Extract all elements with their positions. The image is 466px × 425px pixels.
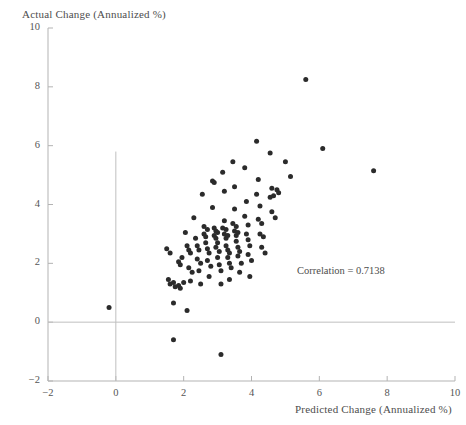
data-point xyxy=(268,151,273,156)
data-point xyxy=(244,199,249,204)
data-point xyxy=(220,170,225,175)
data-point xyxy=(254,139,259,144)
data-point xyxy=(178,286,183,291)
data-point xyxy=(164,246,169,251)
data-point xyxy=(196,248,201,253)
data-point xyxy=(196,268,201,273)
data-point xyxy=(249,258,254,263)
reference-lines xyxy=(48,152,455,381)
data-point xyxy=(218,281,223,286)
data-point xyxy=(203,234,208,239)
data-point xyxy=(207,274,212,279)
data-point xyxy=(246,237,251,242)
data-point xyxy=(215,255,220,260)
data-point xyxy=(205,227,210,232)
data-point xyxy=(205,258,210,263)
data-point xyxy=(257,203,262,208)
data-point xyxy=(246,252,251,257)
data-point xyxy=(235,245,240,250)
data-point xyxy=(179,255,184,260)
data-point xyxy=(371,168,376,173)
data-point xyxy=(225,233,230,238)
data-point xyxy=(205,246,210,251)
data-points xyxy=(107,77,377,357)
data-point xyxy=(171,280,176,285)
data-point xyxy=(208,264,213,269)
data-point xyxy=(235,253,240,258)
data-point xyxy=(259,221,264,226)
data-point xyxy=(190,270,195,275)
data-point xyxy=(254,192,259,197)
data-point xyxy=(273,215,278,220)
data-point xyxy=(191,215,196,220)
data-point xyxy=(303,77,308,82)
data-point xyxy=(246,223,251,228)
data-point xyxy=(178,262,183,267)
data-point xyxy=(269,209,274,214)
data-point xyxy=(181,280,186,285)
data-point xyxy=(230,159,235,164)
data-point xyxy=(185,308,190,313)
data-point xyxy=(188,278,193,283)
data-point xyxy=(227,261,232,266)
data-point xyxy=(198,261,203,266)
data-point xyxy=(185,243,190,248)
data-point xyxy=(276,190,281,195)
data-point xyxy=(224,243,229,248)
data-point xyxy=(271,193,276,198)
data-point xyxy=(234,224,239,229)
data-point xyxy=(218,352,223,357)
data-point xyxy=(171,301,176,306)
data-point xyxy=(195,256,200,261)
data-point xyxy=(232,184,237,189)
data-point xyxy=(239,261,244,266)
data-point xyxy=(222,218,227,223)
data-point xyxy=(225,255,230,260)
data-point xyxy=(224,227,229,232)
data-point xyxy=(210,205,215,210)
data-point xyxy=(227,251,232,256)
data-point xyxy=(213,245,218,250)
data-point xyxy=(198,281,203,286)
data-point xyxy=(263,251,268,256)
data-point xyxy=(171,337,176,342)
data-point xyxy=(256,177,261,182)
data-point xyxy=(234,239,239,244)
data-point xyxy=(256,217,261,222)
data-point xyxy=(247,274,252,279)
data-point xyxy=(237,270,242,275)
data-point xyxy=(244,231,249,236)
data-point xyxy=(183,230,188,235)
data-point xyxy=(217,262,222,267)
data-point xyxy=(222,189,227,194)
data-point xyxy=(168,251,173,256)
data-point xyxy=(232,206,237,211)
data-point xyxy=(235,230,240,235)
data-point xyxy=(207,251,212,256)
scatter-plot-figure: Actual Change (Annualized %) Predicted C… xyxy=(0,0,466,425)
data-point xyxy=(247,243,252,248)
data-point xyxy=(269,186,274,191)
data-point xyxy=(242,165,247,170)
data-point xyxy=(213,236,218,241)
data-point xyxy=(218,268,223,273)
plot-area xyxy=(0,0,466,425)
data-point xyxy=(227,277,232,282)
data-point xyxy=(237,249,242,254)
data-point xyxy=(261,234,266,239)
data-point xyxy=(259,245,264,250)
data-point xyxy=(107,305,112,310)
data-point xyxy=(288,174,293,179)
data-point xyxy=(195,243,200,248)
data-point xyxy=(203,240,208,245)
data-point xyxy=(283,159,288,164)
data-point xyxy=(229,265,234,270)
data-point xyxy=(215,240,220,245)
data-point xyxy=(242,214,247,219)
axis-lines xyxy=(48,28,455,381)
data-point xyxy=(212,180,217,185)
data-point xyxy=(200,192,205,197)
data-point xyxy=(188,251,193,256)
data-point xyxy=(217,249,222,254)
data-point xyxy=(215,230,220,235)
